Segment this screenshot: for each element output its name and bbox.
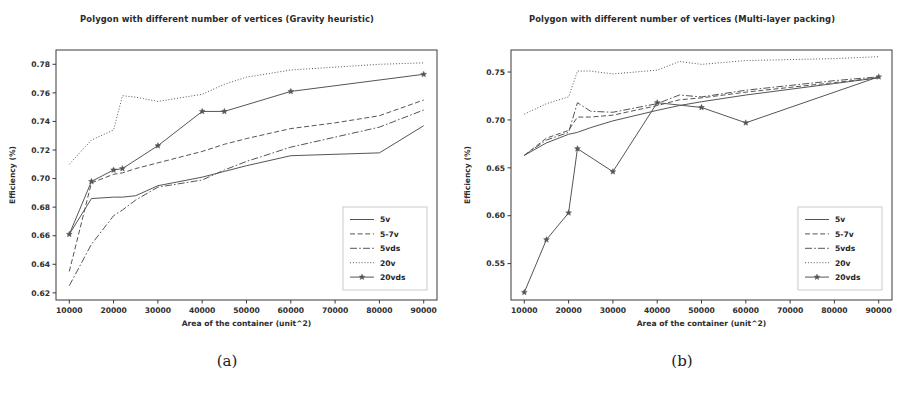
line-chart-a: 0.620.640.660.680.700.720.740.760.781000… [0, 44, 454, 344]
svg-text:80000: 80000 [366, 306, 392, 315]
svg-text:60000: 60000 [733, 306, 759, 315]
svg-text:0.75: 0.75 [486, 68, 505, 77]
svg-text:20v: 20v [835, 259, 851, 268]
svg-text:0.65: 0.65 [486, 164, 505, 173]
svg-text:20vds: 20vds [835, 273, 861, 282]
figure-page: Polygon with different number of vertice… [0, 0, 909, 400]
svg-text:40000: 40000 [189, 306, 215, 315]
svg-text:5vds: 5vds [835, 244, 856, 253]
svg-text:70000: 70000 [777, 306, 803, 315]
svg-text:60000: 60000 [278, 306, 304, 315]
svg-text:0.66: 0.66 [31, 231, 50, 240]
svg-text:10000: 10000 [56, 306, 82, 315]
svg-text:90000: 90000 [865, 306, 891, 315]
svg-text:5vds: 5vds [380, 244, 401, 253]
svg-text:0.60: 0.60 [486, 211, 505, 220]
svg-text:0.78: 0.78 [31, 60, 50, 69]
chart-title-a: Polygon with different number of vertice… [0, 14, 454, 24]
svg-text:50000: 50000 [233, 306, 259, 315]
svg-text:20v: 20v [380, 259, 396, 268]
chart-title-b: Polygon with different number of vertice… [455, 14, 909, 24]
svg-text:40000: 40000 [644, 306, 670, 315]
svg-text:Area of the container (unit^2): Area of the container (unit^2) [182, 319, 312, 328]
plot-area-b: 0.550.600.650.700.7510000200003000040000… [455, 44, 909, 344]
svg-text:50000: 50000 [688, 306, 714, 315]
svg-text:0.68: 0.68 [31, 203, 50, 212]
svg-text:0.70: 0.70 [486, 116, 505, 125]
figure-a: Polygon with different number of vertice… [0, 0, 454, 400]
svg-text:30000: 30000 [145, 306, 171, 315]
svg-text:0.64: 0.64 [31, 260, 50, 269]
svg-text:0.70: 0.70 [31, 174, 50, 183]
svg-text:20000: 20000 [100, 306, 126, 315]
figure-b: Polygon with different number of vertice… [455, 0, 909, 400]
line-chart-b: 0.550.600.650.700.7510000200003000040000… [455, 44, 909, 344]
svg-text:20vds: 20vds [380, 273, 406, 282]
svg-text:0.55: 0.55 [486, 259, 505, 268]
svg-text:30000: 30000 [600, 306, 626, 315]
svg-text:80000: 80000 [821, 306, 847, 315]
svg-text:Area of the container (unit^2): Area of the container (unit^2) [637, 319, 767, 328]
svg-text:0.72: 0.72 [31, 146, 50, 155]
svg-text:Efficiency (%): Efficiency (%) [8, 146, 17, 204]
svg-text:0.76: 0.76 [31, 89, 50, 98]
svg-text:5-7v: 5-7v [380, 230, 399, 239]
svg-text:70000: 70000 [322, 306, 348, 315]
svg-text:0.74: 0.74 [31, 117, 50, 126]
svg-text:0.62: 0.62 [31, 289, 50, 298]
svg-text:5v: 5v [835, 215, 845, 224]
svg-text:5-7v: 5-7v [835, 230, 854, 239]
subfigure-caption-b: (b) [455, 352, 909, 370]
svg-text:20000: 20000 [555, 306, 581, 315]
plot-area-a: 0.620.640.660.680.700.720.740.760.781000… [0, 44, 454, 344]
svg-text:Efficiency (%): Efficiency (%) [463, 146, 472, 204]
svg-text:10000: 10000 [511, 306, 537, 315]
subfigure-caption-a: (a) [0, 352, 454, 370]
svg-text:90000: 90000 [410, 306, 436, 315]
svg-text:5v: 5v [380, 215, 390, 224]
